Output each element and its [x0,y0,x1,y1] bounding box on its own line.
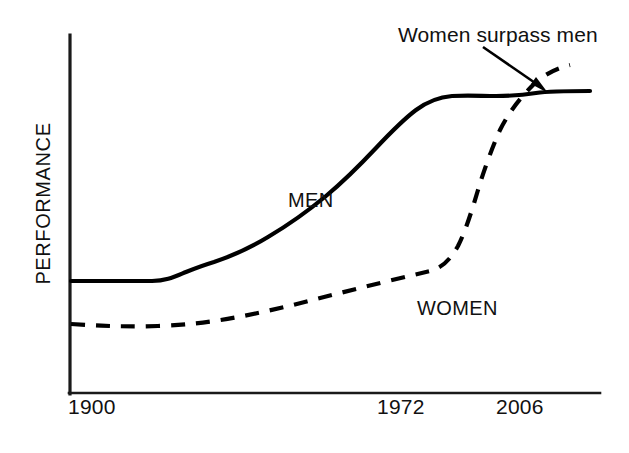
x-tick-label-1900: 1900 [68,396,116,417]
chart-canvas [0,0,629,453]
x-tick-label-1972: 1972 [377,396,425,417]
x-tick-label-2006: 2006 [496,396,544,417]
annotation-women-surpass-men: Women surpass men [398,24,598,45]
y-axis-label: PERFORMANCE [32,109,55,299]
performance-trend-chart: PERFORMANCE 1900 1972 2006 MEN WOMEN Wom… [0,0,629,453]
series-label-women: WOMEN [417,298,498,318]
annotation-arrow-shaft [483,47,541,87]
series-line-men [71,91,590,281]
series-label-men: MEN [288,190,334,210]
